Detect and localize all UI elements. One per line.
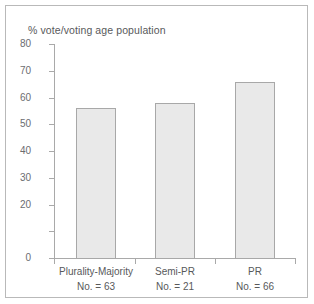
bar-pr: [235, 82, 275, 260]
y-tick-30: [49, 178, 55, 179]
x-tick-sep-2: [215, 258, 216, 264]
y-tick-70: [49, 71, 55, 72]
x-tick-start: [54, 258, 55, 264]
y-tick-label-50: 50: [7, 119, 31, 129]
y-tick-label-40: 40: [7, 146, 31, 156]
category-count-semi-pr: No. = 21: [131, 280, 219, 295]
figure-frame: % vote/voting age population 80 70 60 50…: [5, 5, 308, 298]
y-tick-label-0: 0: [7, 253, 31, 263]
category-name-semi-pr: Semi-PR: [131, 265, 219, 280]
bar-plurality-majority: [76, 108, 116, 259]
chart-figure: % vote/voting age population 80 70 60 50…: [0, 0, 314, 304]
y-tick-60: [49, 98, 55, 99]
y-tick-label-60: 60: [7, 93, 31, 103]
y-tick-label-80: 80: [7, 39, 31, 49]
y-tick-label-30: 30: [7, 173, 31, 183]
category-count-pr: No. = 66: [211, 280, 299, 295]
x-category-label-semi-pr: Semi-PR No. = 21: [131, 265, 219, 294]
y-tick-40: [49, 151, 55, 152]
x-category-label-pr: PR No. = 66: [211, 265, 299, 294]
y-tick-80: [49, 44, 55, 45]
y-tick-50: [49, 124, 55, 125]
x-tick-sep-1: [135, 258, 136, 264]
category-name-pr: PR: [211, 265, 299, 280]
y-axis-caption: % vote/voting age population: [28, 24, 166, 36]
y-tick-label-70: 70: [7, 66, 31, 76]
y-tick-10: [49, 231, 55, 232]
bar-semi-pr: [155, 103, 195, 259]
y-tick-20: [49, 205, 55, 206]
x-tick-end: [295, 258, 296, 264]
y-tick-label-20: 20: [7, 200, 31, 210]
